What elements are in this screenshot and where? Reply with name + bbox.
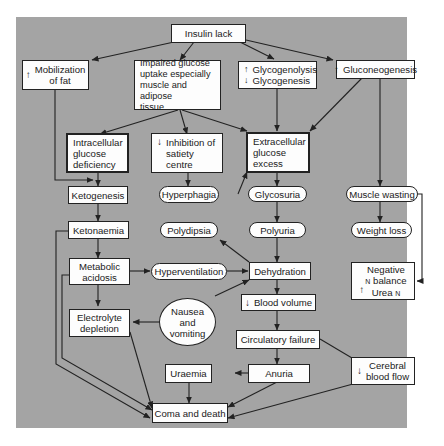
node-ketonaemia: Ketonaemia — [68, 221, 129, 239]
node-uraemia: Uraemia — [165, 364, 212, 383]
nitrogen-subscript: N — [365, 278, 370, 285]
up-arrow-icon: ↑ — [26, 70, 31, 80]
up-arrow-icon: ↑ — [359, 285, 364, 295]
node-label-line: excess — [253, 158, 306, 169]
node-label-line: of fat — [35, 75, 86, 86]
node-label-line: glucose — [253, 147, 306, 158]
node-label-line: tissue — [140, 102, 220, 113]
node-label: Hyperventilation — [155, 266, 224, 277]
node-label-line: Impaired glucose — [140, 58, 220, 69]
node-label: Insulin lack — [185, 28, 232, 39]
node-coma-and-death: Coma and death — [152, 403, 228, 423]
node-label: Polydipsia — [167, 225, 211, 236]
node-nausea-vomiting: Nausea and vomiting — [159, 298, 216, 346]
node-label-line: Mobilization — [35, 64, 86, 75]
node-glycosuria: Glycosuria — [248, 186, 307, 202]
node-label-line: Intracellular — [73, 137, 123, 148]
node-impaired-glucose-uptake: Impaired glucose uptake especially muscl… — [134, 60, 221, 110]
down-arrow-icon: ↓ — [245, 298, 250, 308]
node-hyperphagia: Hyperphagia — [159, 186, 219, 203]
node-negative-n-balance: ↑ Negative N balance Urea N — [351, 262, 415, 300]
node-label-line: Inhibition of — [166, 137, 215, 148]
node-weight-loss: Weight loss — [351, 222, 412, 238]
node-ketogenesis: Ketogenesis — [68, 186, 128, 204]
node-mobilization-of-fat: ↑ Mobilization of fat — [22, 60, 89, 90]
node-label: Dehydration — [254, 266, 306, 277]
node-label-line: and — [170, 317, 206, 328]
node-label: Hyperphagia — [162, 189, 216, 200]
node-label: Gluconeogenesis — [343, 64, 417, 75]
node-blood-volume: ↓ Blood volume — [241, 294, 316, 311]
node-label-line: uptake especially — [140, 69, 220, 80]
node-hyperventilation: Hyperventilation — [151, 263, 227, 280]
node-label: Ketogenesis — [72, 190, 125, 201]
down-arrow-icon: ↓ — [244, 75, 249, 86]
node-label-line: Negative — [365, 264, 406, 275]
node-label-line: Extracellular — [253, 136, 306, 147]
node-muscle-wasting: Muscle wasting — [346, 186, 418, 202]
node-cerebral-blood-flow: ↓ Cerebral blood flow — [351, 357, 415, 385]
node-label-line: Metabolic — [79, 261, 120, 272]
down-arrow-icon: ↓ — [157, 137, 162, 147]
node-label: Uraemia — [170, 368, 206, 379]
node-dehydration: Dehydration — [249, 262, 311, 280]
node-label-line: Glycogenesis — [253, 75, 318, 86]
node-label: Anuria — [265, 368, 293, 379]
node-label: Blood volume — [254, 297, 312, 308]
node-extracellular-glucose-excess: Extracellular glucose excess — [246, 132, 310, 173]
node-anuria: Anuria — [248, 364, 310, 383]
node-polydipsia: Polydipsia — [160, 222, 218, 238]
node-electrolyte-depletion: Electrolyte depletion — [69, 309, 130, 337]
node-label-line: depletion — [77, 323, 122, 334]
node-label-line: blood flow — [366, 371, 409, 382]
node-label-line: Glycogenolysis — [253, 64, 318, 75]
node-label-line: deficiency — [73, 159, 123, 170]
node-label-line: Electrolyte — [77, 312, 122, 323]
node-label-line: muscle and adipose — [140, 80, 220, 102]
node-label-line: satiety — [166, 148, 215, 159]
node-label: Muscle wasting — [349, 189, 415, 200]
node-label: Coma and death — [155, 408, 226, 419]
node-glycogenolysis-glycogenesis: ↑ ↓ Glycogenolysis Glycogenesis — [238, 61, 317, 89]
node-label-line: balance — [373, 275, 407, 286]
node-label-line: centre — [166, 159, 215, 170]
node-label-line: Urea — [372, 287, 393, 298]
node-label-line: Nausea — [170, 306, 206, 317]
node-circulatory-failure: Circulatory failure — [236, 330, 320, 349]
node-gluconeogenesis: ↑ Gluconeogenesis — [336, 60, 415, 79]
up-arrow-icon: ↑ — [244, 64, 249, 75]
node-label: Ketonaemia — [73, 225, 124, 236]
node-label: Circulatory failure — [241, 334, 316, 345]
down-arrow-icon: ↓ — [357, 366, 362, 376]
node-label-line: Cerebral — [366, 360, 409, 371]
node-insulin-lack: Insulin lack — [171, 24, 246, 43]
node-polyuria: Polyuria — [249, 222, 306, 238]
node-label-line: acidosis — [79, 272, 120, 283]
node-label: Glycosuria — [255, 189, 300, 200]
node-label: Weight loss — [357, 225, 406, 236]
node-inhibition-satiety-centre: ↓ Inhibition of satiety centre — [151, 133, 223, 173]
node-metabolic-acidosis: Metabolic acidosis — [69, 258, 130, 285]
nitrogen-subscript: N — [395, 290, 400, 297]
node-label: Polyuria — [260, 225, 295, 236]
up-arrow-icon: ↑ — [334, 65, 339, 75]
node-label-line: glucose — [73, 148, 123, 159]
node-intracellular-glucose-deficiency: Intracellular glucose deficiency — [66, 133, 129, 173]
node-label-line: vomiting — [170, 328, 206, 339]
